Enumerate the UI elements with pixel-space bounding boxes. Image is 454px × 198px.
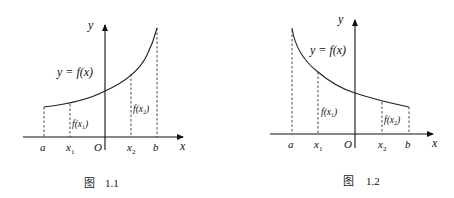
tick-label-x1: x1 [65,141,75,156]
value-label-f-x2: f(x2) [133,104,149,115]
tick-label-b: b [405,138,411,150]
diagram-canvas: y x y = f(x) a x1 O x2 b f(x1) f(x2) 图 1… [0,0,454,198]
y-axis-label: y [87,18,94,32]
figure-1-1: y x y = f(x) a x1 O x2 b f(x1) f(x2) 图 1… [23,18,186,190]
value-label-f-x1: f(x1) [72,119,88,130]
x-axis-label: x [431,136,438,150]
value-label-f-x1: f(x1) [321,107,337,118]
tick-label-b: b [153,141,159,153]
y-axis-label: y [337,12,344,26]
figure-1-2: y x y = f(x) a x1 O x2 b f(x1) f(x2) 图 1… [270,12,438,188]
origin-label: O [94,141,102,153]
function-label: y = f(x) [56,65,93,79]
tick-label-a: a [40,141,46,153]
figure-caption-prefix: 图 [84,177,95,190]
function-curve [292,28,409,107]
x-axis-label: x [179,139,186,153]
figure-caption-number: 1.1 [105,177,119,189]
figure-caption-number: 1.2 [366,175,380,187]
function-label: y = f(x) [309,43,346,57]
tick-label-x2: x2 [377,138,387,153]
tick-label-x1: x1 [313,138,323,153]
tick-label-a: a [288,138,294,150]
value-label-f-x2: f(x2) [384,115,400,126]
figure-caption-prefix: 图 [343,175,354,188]
origin-label: O [344,138,352,150]
tick-label-x2: x2 [126,141,136,156]
